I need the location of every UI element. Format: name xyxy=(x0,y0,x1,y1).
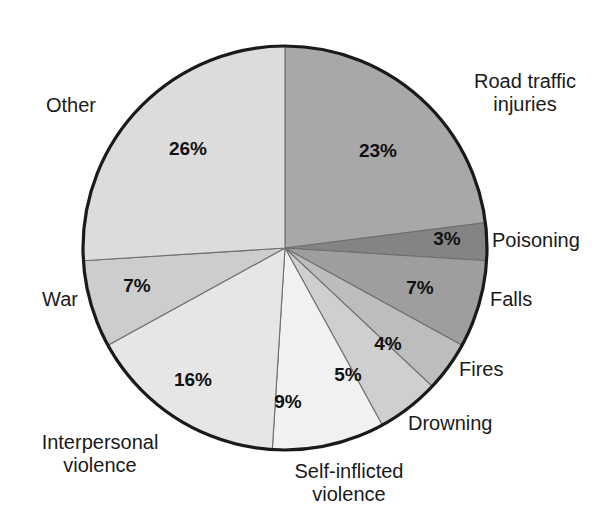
category-label-interpersonal-violence-line2: violence xyxy=(16,454,184,477)
category-label-fires: Fires xyxy=(459,358,559,381)
percent-label-other: 26% xyxy=(169,138,207,159)
category-label-interpersonal-violence-line1: Interpersonal xyxy=(16,431,184,454)
category-label-other: Other xyxy=(46,94,156,117)
category-label-interpersonal-violence: Interpersonal violence xyxy=(16,431,184,477)
category-label-self-inflicted-violence-line1: Self-inflicted xyxy=(270,460,428,483)
percent-label-road-traffic-injuries: 23% xyxy=(359,140,397,161)
category-label-self-inflicted-violence: Self-inflicted violence xyxy=(270,460,428,506)
percent-label-war: 7% xyxy=(123,275,151,296)
category-label-poisoning: Poisoning xyxy=(492,229,606,252)
percent-label-poisoning: 3% xyxy=(433,228,461,249)
category-label-road-traffic-injuries: Road traffic injuries xyxy=(450,70,600,116)
percent-label-drowning: 5% xyxy=(334,364,362,385)
category-label-self-inflicted-violence-line2: violence xyxy=(270,483,428,506)
percent-label-self-inflicted-violence: 9% xyxy=(274,391,302,412)
category-label-war: War xyxy=(0,288,78,311)
pie-chart-figure: 23% 3% 7% 4% 5% 9% 16% 7% 26% Road traff… xyxy=(0,0,606,532)
category-label-drowning: Drowning xyxy=(408,412,548,435)
percent-label-falls: 7% xyxy=(406,277,434,298)
category-label-falls: Falls xyxy=(490,288,590,311)
category-label-road-traffic-injuries-line2: injuries xyxy=(450,93,600,116)
percent-label-fires: 4% xyxy=(374,333,402,354)
category-label-road-traffic-injuries-line1: Road traffic xyxy=(450,70,600,93)
percent-label-interpersonal-violence: 16% xyxy=(174,369,212,390)
